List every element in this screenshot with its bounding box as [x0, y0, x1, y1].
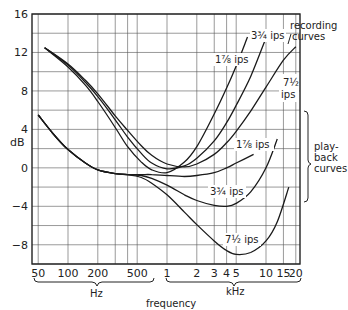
- y-tick-label: 16: [14, 8, 28, 21]
- label-7-1-2-ips-recording: 7½ ips: [279, 74, 299, 102]
- curve-label: 1⅞ ips: [236, 139, 270, 150]
- label-3-3-4-ips-recording: 3¾ ips: [250, 29, 286, 42]
- recording-curves-leader: [288, 34, 291, 44]
- hz-unit-label: Hz: [90, 288, 103, 299]
- x-tick-label: 100: [58, 267, 79, 280]
- y-tick-labels: 1612840−4−8: [12, 8, 28, 252]
- playback-curves-label-line1: play-: [314, 141, 339, 152]
- playback-curves-label-line2: back: [314, 152, 338, 163]
- label-1-7-8-ips-playback: 1⅞ ips: [234, 138, 274, 151]
- x-tick-label: 200: [87, 267, 108, 280]
- x-tick-label: 4: [223, 267, 230, 280]
- x-tick-label: 2: [193, 267, 200, 280]
- curve-label-number: 7½: [283, 77, 299, 88]
- y-tick-label: 4: [21, 123, 28, 136]
- label-7-1-2-ips-playback: 7½ ips: [223, 233, 261, 246]
- x-axis-label: frequency: [146, 298, 196, 309]
- frequency-response-chart: 1612840−4−8 5010020050012345101520 dB Hz…: [0, 0, 348, 310]
- x-tick-label: 10: [259, 267, 273, 280]
- recording-curves-label-line1: recording: [290, 20, 337, 31]
- recording-curves-label-line2: curves: [292, 31, 325, 42]
- curve-label: 1⅞ ips: [215, 54, 249, 65]
- x-tick-label: 1: [164, 267, 171, 280]
- label-3-3-4-ips-playback: 3¾ ips: [208, 185, 246, 198]
- khz-unit-label: kHz: [226, 286, 245, 297]
- curve-1-7-8-ips-playback: [38, 115, 253, 177]
- label-1-7-8-ips-recording: 1⅞ ips: [213, 53, 253, 66]
- x-tick-label: 5: [233, 267, 240, 280]
- y-tick-label: 0: [21, 162, 28, 175]
- x-tick-labels: 5010020050012345101520: [31, 267, 303, 280]
- y-tick-label: 8: [21, 85, 28, 98]
- curve-label-unit: ips: [281, 89, 295, 100]
- curve-label: 3¾ ips: [251, 30, 285, 41]
- playback-curves-label-line3: curves: [314, 163, 347, 174]
- y-tick-label: −4: [12, 200, 28, 213]
- x-tick-label: 3: [211, 267, 218, 280]
- x-tick-label: 500: [127, 267, 148, 280]
- curve-label: 7½ ips: [225, 234, 259, 245]
- playback-brace: [304, 111, 311, 202]
- y-axis-label: dB: [10, 136, 25, 149]
- y-tick-label: 12: [14, 46, 28, 59]
- y-tick-label: −8: [12, 239, 28, 252]
- x-tick-label: 50: [31, 267, 45, 280]
- curve-label: 3¾ ips: [210, 186, 244, 197]
